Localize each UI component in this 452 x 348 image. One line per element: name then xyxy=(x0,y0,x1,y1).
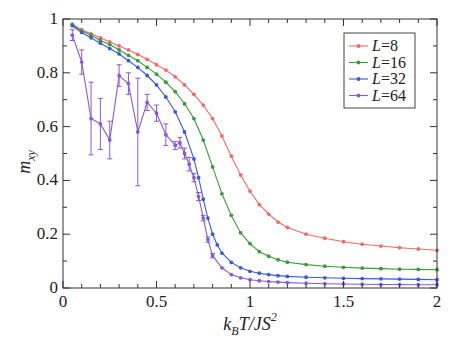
legend-item-label: L=64 xyxy=(371,87,406,104)
data-point xyxy=(80,31,84,35)
x-tick-label: 2 xyxy=(433,292,442,311)
x-axis-label: kBT/JS2 xyxy=(223,310,276,338)
data-point xyxy=(127,53,131,57)
data-point xyxy=(276,274,280,278)
data-point xyxy=(164,80,168,84)
y-tick-label: 1 xyxy=(50,9,59,28)
data-point xyxy=(80,60,84,64)
data-point xyxy=(192,157,196,161)
data-point xyxy=(164,68,168,72)
data-point xyxy=(211,117,215,121)
data-point xyxy=(145,74,149,78)
data-point xyxy=(201,197,205,201)
data-point xyxy=(183,130,187,134)
x-tick-label: 0.5 xyxy=(146,292,167,311)
data-point xyxy=(145,66,149,70)
data-point xyxy=(239,266,243,270)
data-point xyxy=(248,269,252,273)
y-axis-label: mxy xyxy=(14,150,38,174)
data-point xyxy=(206,216,210,220)
data-point xyxy=(201,216,205,220)
data-point xyxy=(117,52,121,56)
data-point xyxy=(257,203,261,207)
chart: 00.511.5200.20.40.60.81 L=8L=16L=32L=64 … xyxy=(0,0,452,348)
data-point xyxy=(286,260,290,264)
data-point xyxy=(360,266,364,270)
data-point xyxy=(360,277,364,281)
data-point xyxy=(304,275,308,279)
data-point xyxy=(220,266,224,270)
data-point xyxy=(127,59,131,63)
data-point xyxy=(248,242,252,246)
data-point xyxy=(99,122,103,126)
x-tick-label: 0 xyxy=(59,292,68,311)
data-point xyxy=(416,277,420,281)
y-tick-label: 0.6 xyxy=(37,117,58,136)
legend-item-label: L=8 xyxy=(371,37,398,54)
data-point xyxy=(276,258,280,262)
data-point xyxy=(136,59,140,63)
data-point xyxy=(155,72,159,76)
data-point xyxy=(211,165,215,169)
data-point xyxy=(220,192,224,196)
data-point xyxy=(155,83,159,87)
y-tick-label: 0.2 xyxy=(37,224,58,243)
data-point xyxy=(276,280,280,284)
data-point xyxy=(197,176,201,180)
y-tick-label: 0 xyxy=(50,278,59,297)
data-point xyxy=(286,275,290,279)
data-point xyxy=(229,213,233,217)
data-point xyxy=(117,74,121,78)
data-point xyxy=(267,280,271,284)
data-point xyxy=(89,36,93,40)
data-point xyxy=(267,273,271,277)
data-point xyxy=(215,243,219,247)
data-point xyxy=(173,75,177,79)
data-point xyxy=(323,276,327,280)
data-point xyxy=(360,242,364,246)
data-point xyxy=(187,162,191,166)
data-point xyxy=(239,231,243,235)
data-point xyxy=(127,48,131,52)
data-point xyxy=(136,66,140,70)
data-point xyxy=(127,82,131,86)
data-point xyxy=(342,276,346,280)
data-point xyxy=(192,117,196,121)
data-point xyxy=(99,41,103,45)
data-point xyxy=(70,24,74,28)
data-point xyxy=(155,111,159,115)
data-point xyxy=(379,244,383,248)
data-point xyxy=(398,277,402,281)
data-point xyxy=(416,268,420,272)
data-point xyxy=(229,273,233,277)
data-point xyxy=(257,279,261,283)
data-point xyxy=(136,53,140,57)
data-point xyxy=(379,277,383,281)
data-point xyxy=(183,83,187,87)
data-point xyxy=(248,189,252,193)
data-point xyxy=(108,43,112,47)
data-point xyxy=(164,133,168,137)
data-point xyxy=(257,250,261,254)
data-point xyxy=(145,57,149,61)
x-tick-label: 1 xyxy=(246,292,255,311)
y-tick-label: 0.4 xyxy=(37,170,59,189)
data-point xyxy=(178,141,182,145)
data-point xyxy=(304,232,308,236)
data-point xyxy=(206,238,210,242)
data-point xyxy=(323,264,327,268)
data-point xyxy=(117,48,121,52)
legend: L=8L=16L=32L=64 xyxy=(344,33,415,108)
data-point xyxy=(286,226,290,230)
data-point xyxy=(145,100,149,104)
data-point xyxy=(89,117,93,121)
data-point xyxy=(70,33,74,37)
data-point xyxy=(220,251,224,255)
data-point xyxy=(211,254,215,258)
data-point xyxy=(136,130,140,134)
data-point xyxy=(304,263,308,267)
data-point xyxy=(192,176,196,180)
data-point xyxy=(229,154,233,158)
data-point xyxy=(201,103,205,107)
data-point xyxy=(239,276,243,280)
